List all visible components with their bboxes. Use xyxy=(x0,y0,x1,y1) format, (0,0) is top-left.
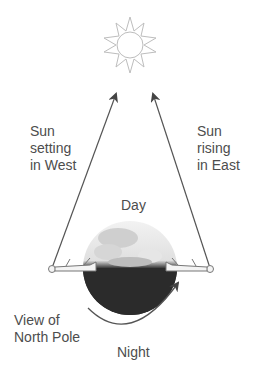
label-line: in East xyxy=(197,157,240,174)
label-line: North Pole xyxy=(14,329,80,346)
day-label: Day xyxy=(121,197,146,214)
label-line: rising xyxy=(197,140,240,157)
label-line: in West xyxy=(30,157,76,174)
sun-icon xyxy=(104,17,156,73)
view-of-north-pole-label: View of North Pole xyxy=(14,312,80,346)
sun-setting-label: Sun setting in West xyxy=(30,123,76,174)
label-line: Sun xyxy=(30,123,76,140)
label-line: setting xyxy=(30,140,76,157)
night-label: Night xyxy=(117,344,150,361)
label-line: View of xyxy=(14,312,80,329)
sun-rising-label: Sun rising in East xyxy=(197,123,240,174)
label-line: Sun xyxy=(197,123,240,140)
